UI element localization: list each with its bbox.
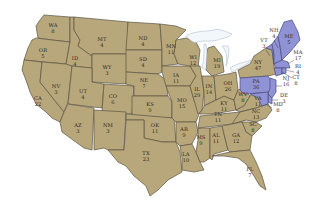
- label-mt: MT4: [98, 37, 107, 48]
- label-me: ME5: [284, 34, 293, 45]
- label-in: IN14: [206, 84, 213, 95]
- label-nv: NV3: [52, 84, 61, 95]
- label-ok: OK11: [151, 123, 159, 134]
- label-pa: PA36: [253, 79, 260, 90]
- label-ct: CT8: [292, 75, 300, 86]
- label-ne: NE7: [140, 78, 149, 89]
- label-or: OR5: [39, 48, 47, 59]
- state-co[interactable]: [102, 84, 134, 114]
- label-mn: MN11: [166, 44, 176, 55]
- label-nh: NH4: [269, 28, 278, 39]
- label-ar: AR9: [180, 127, 188, 138]
- label-sc: SC8: [249, 122, 257, 133]
- label-az: AZ3: [74, 123, 82, 134]
- label-wv: WV8: [238, 92, 247, 103]
- label-al: AL11: [212, 133, 219, 144]
- label-la: LA10: [182, 152, 189, 163]
- label-mi: MI19: [213, 58, 221, 69]
- label-id: ID4: [72, 56, 78, 67]
- label-sd: SD4: [139, 57, 147, 68]
- leader-ri: [286, 70, 294, 72]
- label-ca: CA22: [34, 96, 42, 107]
- label-va: VA11: [254, 96, 261, 107]
- label-ma: MA17: [293, 50, 302, 61]
- label-ia: IA11: [173, 73, 180, 84]
- label-ks: KS9: [146, 102, 154, 113]
- label-oh: OH26: [224, 81, 233, 92]
- label-wy: WY3: [103, 65, 112, 76]
- label-nj: NJ16: [283, 76, 290, 87]
- label-nd: ND4: [139, 36, 148, 47]
- label-nm: NM3: [103, 123, 113, 134]
- label-ms: MS9: [196, 135, 205, 146]
- label-co: CO6: [109, 94, 117, 105]
- label-fl: FL7: [246, 167, 253, 178]
- state-ct[interactable]: [274, 68, 282, 76]
- label-wa: WA8: [48, 23, 57, 34]
- label-vt: VT3: [260, 38, 267, 49]
- label-il: IL29: [194, 87, 201, 98]
- label-tx: TX23: [142, 151, 149, 162]
- state-fl[interactable]: [212, 150, 266, 190]
- us-electoral-map: WA8 OR5 CA22 ID4 NV3 MT4 WY3 UT4 AZ3 CO6…: [0, 0, 316, 212]
- label-wi: WI12: [189, 55, 197, 66]
- label-ga: GA12: [232, 133, 240, 144]
- label-md: MD8: [273, 102, 283, 113]
- label-ut: UT4: [79, 89, 87, 100]
- label-ny: NY47: [254, 60, 262, 71]
- label-tn: TN11: [214, 112, 222, 123]
- label-mo: MO15: [177, 98, 187, 109]
- label-nc: NC13: [252, 109, 261, 120]
